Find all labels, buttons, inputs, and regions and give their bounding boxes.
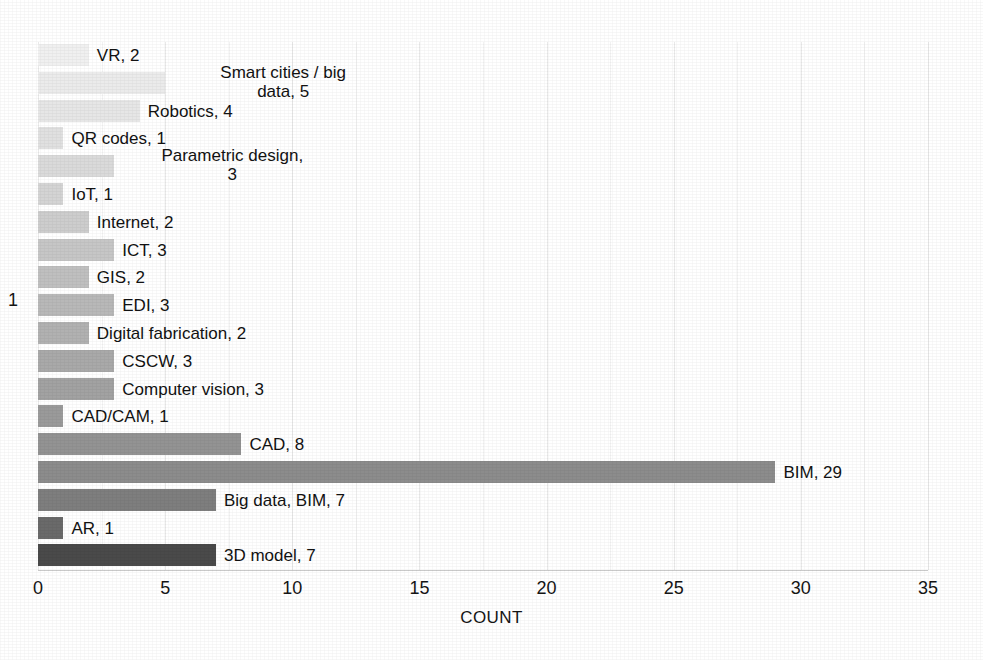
bar-row[interactable]: GIS, 2	[38, 266, 928, 288]
chart-title-cropped	[0, 0, 983, 9]
bar-data-label: AR, 1	[71, 519, 114, 538]
bar-iot[interactable]	[38, 183, 63, 205]
bar-row[interactable]: Big data, BIM, 7	[38, 489, 928, 511]
plot-area: VR, 2Smart cities / big data, 5Robotics,…	[38, 42, 928, 570]
bar-vr[interactable]	[38, 44, 89, 66]
bar-row[interactable]: IoT, 1	[38, 183, 928, 205]
x-tick-label: 15	[389, 578, 449, 599]
bar-row[interactable]: EDI, 3	[38, 294, 928, 316]
bar-row[interactable]: AR, 1	[38, 517, 928, 539]
x-tick-label: 5	[135, 578, 195, 599]
bar-row[interactable]: ICT, 3	[38, 239, 928, 261]
bar-digital-fabrication[interactable]	[38, 322, 89, 344]
bar-cscw[interactable]	[38, 350, 114, 372]
bar-data-label: ICT, 3	[122, 241, 166, 260]
x-axis-line	[38, 570, 928, 571]
bar-data-label: CAD/CAM, 1	[71, 407, 168, 426]
bar-row[interactable]: BIM, 29	[38, 461, 928, 483]
bar-data-label: GIS, 2	[97, 268, 145, 287]
bar-row[interactable]: CAD, 8	[38, 433, 928, 455]
bar-computer-vision[interactable]	[38, 378, 114, 400]
bar-data-label: Parametric design, 3	[122, 146, 342, 184]
x-axis-label: COUNT	[0, 608, 983, 628]
x-tick-label: 20	[517, 578, 577, 599]
bar-row[interactable]: Computer vision, 3	[38, 378, 928, 400]
x-tick-label: 30	[771, 578, 831, 599]
bar-data-label: Big data, BIM, 7	[224, 491, 345, 510]
bar-big-data-bim[interactable]	[38, 489, 216, 511]
bar-qr-codes[interactable]	[38, 127, 63, 149]
y-axis-label: 1	[8, 290, 18, 311]
bar-smart-cities-big-data[interactable]	[38, 72, 165, 94]
gridline-major	[928, 42, 929, 570]
bar-ar[interactable]	[38, 517, 63, 539]
x-tick-label: 10	[262, 578, 322, 599]
bar-data-label: Robotics, 4	[148, 102, 233, 121]
bar-row[interactable]: VR, 2	[38, 44, 928, 66]
bar-row[interactable]: Smart cities / big data, 5	[38, 72, 928, 94]
bar-cad-cam[interactable]	[38, 405, 63, 427]
bar-3d-model[interactable]	[38, 544, 216, 566]
bar-data-label: Digital fabrication, 2	[97, 324, 246, 343]
bar-data-label: CAD, 8	[249, 435, 304, 454]
bar-robotics[interactable]	[38, 100, 140, 122]
x-tick-label: 0	[8, 578, 68, 599]
bar-data-label: Smart cities / big data, 5	[173, 63, 393, 101]
bar-chart: VR, 2Smart cities / big data, 5Robotics,…	[0, 0, 983, 660]
bar-row[interactable]: 3D model, 7	[38, 544, 928, 566]
bar-data-label: VR, 2	[97, 46, 140, 65]
bar-row[interactable]: Digital fabrication, 2	[38, 322, 928, 344]
bar-row[interactable]: Parametric design, 3	[38, 155, 928, 177]
bar-gis[interactable]	[38, 266, 89, 288]
bar-row[interactable]: CSCW, 3	[38, 350, 928, 372]
bar-data-label: EDI, 3	[122, 296, 169, 315]
bar-data-label: Internet, 2	[97, 213, 174, 232]
bar-cad[interactable]	[38, 433, 241, 455]
bar-data-label: Computer vision, 3	[122, 380, 264, 399]
bar-row[interactable]: CAD/CAM, 1	[38, 405, 928, 427]
bar-internet[interactable]	[38, 211, 89, 233]
bar-data-label: BIM, 29	[783, 463, 842, 482]
bar-data-label: CSCW, 3	[122, 352, 192, 371]
bar-bim[interactable]	[38, 461, 775, 483]
bar-data-label: IoT, 1	[71, 185, 113, 204]
x-tick-label: 35	[898, 578, 958, 599]
bar-parametric-design[interactable]	[38, 155, 114, 177]
bar-row[interactable]: Internet, 2	[38, 211, 928, 233]
x-tick-label: 25	[644, 578, 704, 599]
bar-ict[interactable]	[38, 239, 114, 261]
bar-edi[interactable]	[38, 294, 114, 316]
bar-data-label: 3D model, 7	[224, 546, 316, 565]
bar-row[interactable]: Robotics, 4	[38, 100, 928, 122]
